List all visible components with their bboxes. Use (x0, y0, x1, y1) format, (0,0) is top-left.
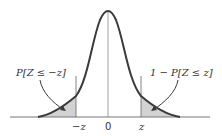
tick-zero: 0 (105, 121, 111, 132)
left-tail-label: P[Z ≤ −z] (15, 67, 66, 78)
right-tail-shade (141, 96, 180, 117)
bell-curve (38, 11, 180, 117)
left-arrow (40, 80, 64, 110)
right-arrow (153, 80, 178, 110)
normal-distribution-diagram: P[Z ≤ −z] 1 − P[Z ≤ z] −z 0 z (0, 0, 222, 139)
tick-neg-z: −z (72, 121, 86, 132)
tick-pos-z: z (138, 121, 145, 132)
right-tail-label: 1 − P[Z ≤ z] (150, 67, 213, 78)
left-tail-shade (38, 96, 76, 117)
